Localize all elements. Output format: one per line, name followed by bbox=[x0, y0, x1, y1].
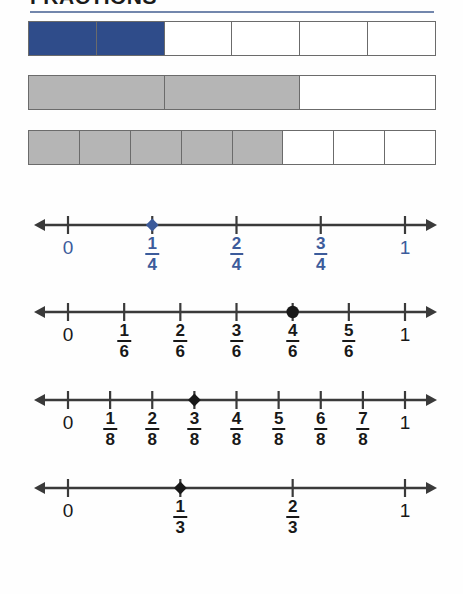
number-line-whole-label: 1 bbox=[400, 237, 411, 259]
fraction-denominator: 4 bbox=[230, 256, 243, 273]
fraction-bar-thirds bbox=[28, 75, 436, 110]
number-line-labels-thirds: 013231 bbox=[0, 498, 463, 553]
number-line-whole-label: 1 bbox=[400, 500, 411, 522]
fraction-glyph: 56 bbox=[342, 322, 355, 360]
fraction-bar-cell-empty bbox=[232, 22, 300, 55]
fraction-glyph: 24 bbox=[230, 235, 243, 273]
number-line-whole-label: 0 bbox=[63, 237, 74, 259]
number-line-fraction-label: 56 bbox=[342, 322, 355, 361]
number-line-fraction-label: 36 bbox=[230, 322, 243, 361]
worksheet-page: FRACTIONS 01424341 016263646561 01828384… bbox=[0, 0, 463, 594]
fraction-glyph: 14 bbox=[146, 235, 159, 273]
fraction-numerator: 1 bbox=[103, 410, 116, 427]
fraction-numerator: 2 bbox=[286, 498, 299, 515]
number-line-fourths: 01424341 bbox=[0, 205, 463, 290]
fraction-denominator: 8 bbox=[314, 431, 327, 448]
fraction-numerator: 2 bbox=[230, 235, 243, 252]
fraction-bar-cell-empty bbox=[165, 22, 233, 55]
fraction-denominator: 8 bbox=[230, 431, 243, 448]
number-line-eighths: 0182838485868781 bbox=[0, 380, 463, 465]
number-line-thirds: 013231 bbox=[0, 468, 463, 553]
number-line-fraction-label: 78 bbox=[356, 410, 369, 449]
fraction-numerator: 6 bbox=[314, 410, 327, 427]
fraction-denominator: 8 bbox=[103, 431, 116, 448]
fraction-numerator: 5 bbox=[272, 410, 285, 427]
fraction-glyph: 34 bbox=[314, 235, 327, 273]
fraction-numerator: 2 bbox=[146, 410, 159, 427]
fraction-glyph: 13 bbox=[174, 498, 187, 536]
fraction-bar-cell-shaded bbox=[97, 22, 165, 55]
fraction-numerator: 2 bbox=[174, 322, 187, 339]
fraction-bar-cell-shaded bbox=[165, 76, 301, 109]
fraction-bar-cell-shaded bbox=[131, 131, 182, 164]
fraction-denominator: 3 bbox=[286, 519, 299, 536]
fraction-bar-cell-shaded bbox=[29, 22, 97, 55]
fraction-denominator: 4 bbox=[146, 256, 159, 273]
fraction-numerator: 4 bbox=[230, 410, 243, 427]
fraction-numerator: 4 bbox=[286, 322, 299, 339]
fraction-denominator: 8 bbox=[188, 431, 201, 448]
page-title: FRACTIONS bbox=[30, 0, 157, 9]
number-line-fraction-label: 23 bbox=[286, 498, 299, 537]
fraction-glyph: 16 bbox=[117, 322, 130, 360]
number-line-fraction-label: 38 bbox=[188, 410, 201, 449]
number-line-fraction-label: 68 bbox=[314, 410, 327, 449]
fraction-numerator: 1 bbox=[117, 322, 130, 339]
fraction-numerator: 1 bbox=[174, 498, 187, 515]
fraction-numerator: 1 bbox=[146, 235, 159, 252]
fraction-bar-cell-empty bbox=[283, 131, 334, 164]
fraction-denominator: 8 bbox=[146, 431, 159, 448]
page-header: FRACTIONS bbox=[0, 0, 463, 16]
number-line-whole-label: 1 bbox=[400, 412, 411, 434]
number-line-fraction-label: 28 bbox=[146, 410, 159, 449]
fraction-glyph: 28 bbox=[146, 410, 159, 448]
number-line-labels-fourths: 01424341 bbox=[0, 235, 463, 290]
fraction-bar-cell-empty bbox=[300, 22, 368, 55]
fraction-denominator: 3 bbox=[174, 519, 187, 536]
number-line-fraction-label: 48 bbox=[230, 410, 243, 449]
fraction-numerator: 7 bbox=[356, 410, 369, 427]
fraction-bar-cell-empty bbox=[385, 131, 435, 164]
number-line-fraction-label: 14 bbox=[146, 235, 159, 274]
fraction-glyph: 36 bbox=[230, 322, 243, 360]
number-line-labels-eighths: 0182838485868781 bbox=[0, 410, 463, 465]
number-line-fraction-label: 16 bbox=[117, 322, 130, 361]
number-line-fraction-label: 58 bbox=[272, 410, 285, 449]
fraction-denominator: 4 bbox=[314, 256, 327, 273]
fraction-bar-cell-empty bbox=[334, 131, 385, 164]
fraction-denominator: 6 bbox=[174, 343, 187, 360]
number-line-fraction-label: 13 bbox=[174, 498, 187, 537]
number-line-whole-label: 0 bbox=[63, 500, 74, 522]
fraction-glyph: 68 bbox=[314, 410, 327, 448]
fraction-denominator: 6 bbox=[342, 343, 355, 360]
number-line-labels-sixths: 016263646561 bbox=[0, 322, 463, 377]
fraction-bar-cell-empty bbox=[300, 76, 435, 109]
fraction-numerator: 3 bbox=[314, 235, 327, 252]
number-line-whole-label: 1 bbox=[400, 324, 411, 346]
fraction-bar-cell-shaded bbox=[80, 131, 131, 164]
fraction-glyph: 46 bbox=[286, 322, 299, 360]
number-line-whole-label: 0 bbox=[63, 412, 74, 434]
fraction-bar-eighths bbox=[28, 130, 436, 165]
number-line-fraction-label: 46 bbox=[286, 322, 299, 361]
number-line-sixths: 016263646561 bbox=[0, 292, 463, 377]
fraction-glyph: 38 bbox=[188, 410, 201, 448]
fraction-glyph: 78 bbox=[356, 410, 369, 448]
fraction-denominator: 6 bbox=[117, 343, 130, 360]
fraction-bar-cell-empty bbox=[368, 22, 435, 55]
fraction-denominator: 6 bbox=[230, 343, 243, 360]
number-line-fraction-label: 26 bbox=[174, 322, 187, 361]
fraction-bar-cell-shaded bbox=[233, 131, 284, 164]
fraction-numerator: 3 bbox=[230, 322, 243, 339]
number-line-fraction-label: 34 bbox=[314, 235, 327, 274]
fraction-denominator: 6 bbox=[286, 343, 299, 360]
fraction-denominator: 8 bbox=[272, 431, 285, 448]
fraction-bar-cell-shaded bbox=[29, 131, 80, 164]
fraction-bar-cell-shaded bbox=[29, 76, 165, 109]
fraction-glyph: 48 bbox=[230, 410, 243, 448]
fraction-bar-sixths bbox=[28, 21, 436, 56]
fraction-glyph: 26 bbox=[174, 322, 187, 360]
fraction-denominator: 8 bbox=[356, 431, 369, 448]
header-divider bbox=[30, 11, 434, 13]
fraction-glyph: 23 bbox=[286, 498, 299, 536]
